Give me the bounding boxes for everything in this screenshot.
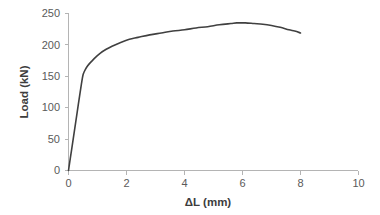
- y-tick-label: 150: [42, 70, 60, 82]
- chart-container: 0 50 100 150 200 250 0 2 4 6 8 10 ΔL (mm…: [0, 0, 380, 215]
- y-tick-label: 100: [42, 101, 60, 113]
- x-tick-label: 8: [297, 177, 303, 189]
- y-tick-label: 250: [42, 7, 60, 19]
- x-tick-label: 2: [123, 177, 129, 189]
- y-axis-title: Load (kN): [18, 65, 30, 118]
- load-displacement-chart: 0 50 100 150 200 250 0 2 4 6 8 10 ΔL (mm…: [0, 0, 380, 215]
- x-tick-label: 4: [181, 177, 187, 189]
- x-tick-label: 0: [65, 177, 71, 189]
- y-tick-label: 0: [54, 164, 60, 176]
- x-tick-label: 10: [352, 177, 364, 189]
- x-axis-title: ΔL (mm): [185, 196, 232, 208]
- y-tick-label: 200: [42, 39, 60, 51]
- x-tick-label: 6: [239, 177, 245, 189]
- y-tick-label: 50: [48, 133, 60, 145]
